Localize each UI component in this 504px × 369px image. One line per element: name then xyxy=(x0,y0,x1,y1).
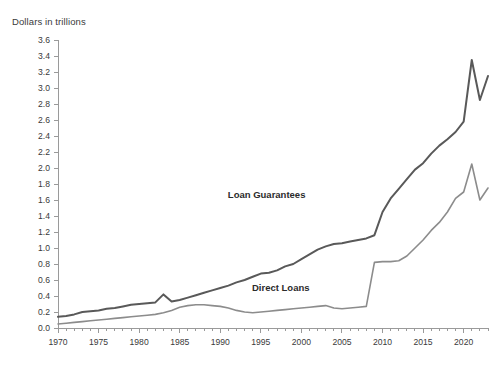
y-tick-label: 1.6 xyxy=(38,195,50,205)
x-tick-label: 1975 xyxy=(89,337,108,347)
y-tick-label: 0.4 xyxy=(38,291,50,301)
x-tick-label: 1995 xyxy=(251,337,270,347)
series-line-direct-loans xyxy=(58,164,488,324)
x-tick-label: 1970 xyxy=(48,337,67,347)
series-label-loan-guarantees: Loan Guarantees xyxy=(228,189,306,200)
y-axis-group: 0.00.20.40.60.81.01.21.41.61.82.02.22.42… xyxy=(38,35,58,333)
y-tick-label: 2.8 xyxy=(38,99,50,109)
x-tick-labels: 1970197519801985199019952000200520102015… xyxy=(48,337,473,347)
y-tick-label: 0.8 xyxy=(38,259,50,269)
x-tick-label: 2020 xyxy=(454,337,473,347)
y-tick-label: 0.2 xyxy=(38,307,50,317)
y-tick-label: 2.4 xyxy=(38,131,50,141)
x-tick-label: 2005 xyxy=(332,337,351,347)
x-tick-label: 1980 xyxy=(130,337,149,347)
y-tick-label: 2.2 xyxy=(38,147,50,157)
y-tick-label: 3.2 xyxy=(38,67,50,77)
x-tick-label: 1990 xyxy=(211,337,230,347)
y-tick-label: 3.4 xyxy=(38,51,50,61)
plot-svg: 0.00.20.40.60.81.01.21.41.61.82.02.22.42… xyxy=(0,0,504,369)
x-tick-label: 2015 xyxy=(414,337,433,347)
y-tick-label: 1.2 xyxy=(38,227,50,237)
y-tick-label: 0.0 xyxy=(38,323,50,333)
y-tick-label: 2.0 xyxy=(38,163,50,173)
y-tick-label: 3.0 xyxy=(38,83,50,93)
series-annotations: Loan GuaranteesDirect Loans xyxy=(228,189,310,293)
y-tick-label: 1.4 xyxy=(38,211,50,221)
x-tick-label: 2010 xyxy=(373,337,392,347)
y-tick-label: 0.6 xyxy=(38,275,50,285)
y-tick-label: 3.6 xyxy=(38,35,50,45)
y-tick-label: 2.6 xyxy=(38,115,50,125)
x-tick-label: 2000 xyxy=(292,337,311,347)
x-tick-marks xyxy=(58,328,488,333)
series-label-direct-loans: Direct Loans xyxy=(252,282,310,293)
y-tick-label: 1.0 xyxy=(38,243,50,253)
series-line-loan-guarantees xyxy=(58,60,488,317)
y-tick-label: 1.8 xyxy=(38,179,50,189)
y-tick-marks xyxy=(54,40,58,328)
line-chart: Dollars in trillions 0.00.20.40.60.81.01… xyxy=(0,0,504,369)
x-axis-group: 1970197519801985199019952000200520102015… xyxy=(48,328,488,347)
y-tick-labels: 0.00.20.40.60.81.01.21.41.61.82.02.22.42… xyxy=(38,35,50,333)
x-tick-label: 1985 xyxy=(170,337,189,347)
